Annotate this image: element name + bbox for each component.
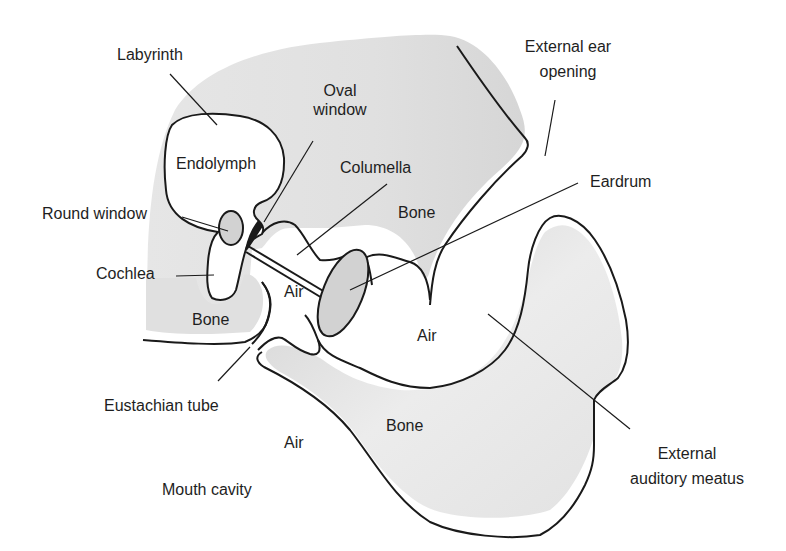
label-bone-upper: Bone: [398, 203, 435, 222]
round-window: [219, 211, 243, 245]
label-external-ear-opening-line2: opening: [508, 62, 628, 81]
label-oval-window-line2: window: [310, 100, 370, 119]
label-air-mouth: Air: [284, 433, 304, 452]
label-cochlea: Cochlea: [96, 264, 155, 283]
lower-bone-region: [266, 225, 623, 517]
label-oval-window: Oval window: [310, 81, 370, 119]
label-oval-window-line1: Oval: [310, 81, 370, 100]
middle-ear-diagram: Labyrinth Oval window External ear openi…: [0, 0, 786, 551]
label-air-middle-ear: Air: [284, 282, 304, 301]
leader-eustachian-tube: [218, 347, 250, 381]
label-external-auditory-meatus: External auditory meatus: [612, 444, 762, 488]
label-eustachian-tube: Eustachian tube: [104, 396, 219, 415]
label-mouth-cavity: Mouth cavity: [162, 480, 252, 499]
label-endolymph: Endolymph: [176, 154, 256, 173]
label-columella: Columella: [340, 158, 411, 177]
label-bone-lower: Bone: [386, 416, 423, 435]
label-bone-left: Bone: [192, 310, 229, 329]
label-external-ear-opening: External ear opening: [508, 37, 628, 81]
label-air-meatus: Air: [417, 326, 437, 345]
label-external-ear-opening-line1: External ear: [508, 37, 628, 56]
label-eardrum: Eardrum: [590, 172, 651, 191]
leader-external-ear-opening: [545, 100, 555, 156]
label-external-auditory-meatus-line1: External: [612, 444, 762, 463]
label-labyrinth: Labyrinth: [117, 45, 183, 64]
label-round-window: Round window: [42, 204, 147, 223]
label-external-auditory-meatus-line2: auditory meatus: [612, 469, 762, 488]
